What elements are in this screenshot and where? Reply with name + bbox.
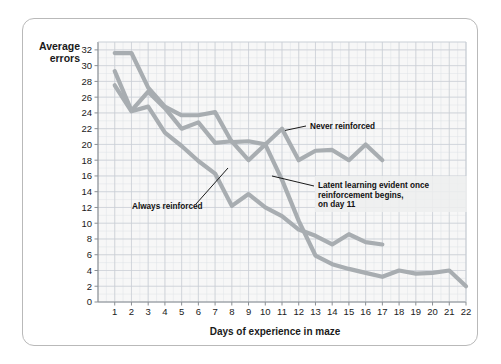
x-tick-label: 18: [394, 306, 405, 317]
x-tick-label: 17: [377, 306, 388, 317]
latent-learning-line3: on day 11: [318, 200, 356, 209]
y-tick-label: 16: [81, 170, 92, 181]
y-tick-labels: 02468101214161820222426283032: [81, 44, 98, 307]
latent-learning-line2: reinforcement begins,: [318, 191, 404, 200]
y-tick-label: 18: [81, 155, 92, 166]
y-tick-label: 6: [87, 249, 92, 260]
y-tick-label: 12: [81, 202, 92, 213]
y-tick-label: 20: [81, 139, 92, 150]
x-tick-label: 19: [411, 306, 422, 317]
y-tick-label: 22: [81, 123, 92, 134]
y-tick-label: 26: [81, 92, 92, 103]
never-reinforced-label: Never reinforced: [310, 122, 375, 131]
x-tick-label: 12: [293, 306, 304, 317]
x-tick-label: 14: [327, 306, 338, 317]
x-tick-label: 3: [146, 306, 151, 317]
y-tick-label: 0: [87, 296, 92, 307]
x-tick-label: 4: [162, 306, 167, 317]
x-tick-label: 2: [129, 306, 134, 317]
y-tick-label: 10: [81, 218, 92, 229]
always-reinforced-label: Always reinforced: [132, 202, 203, 211]
x-tick-label: 13: [310, 306, 321, 317]
x-tick-label: 9: [246, 306, 251, 317]
y-tick-label: 8: [87, 233, 92, 244]
x-tick-label: 8: [229, 306, 234, 317]
x-tick-label: 6: [196, 306, 201, 317]
x-tick-label: 1: [112, 306, 117, 317]
x-tick-label: 15: [344, 306, 355, 317]
y-tick-label: 30: [81, 60, 92, 71]
x-tick-label: 10: [260, 306, 271, 317]
line-chart: 02468101214161820222426283032 1234567891…: [0, 0, 501, 364]
x-tick-label: 5: [179, 306, 184, 317]
y-tick-label: 32: [81, 44, 92, 55]
x-tick-label: 20: [427, 306, 438, 317]
x-tick-label: 16: [360, 306, 371, 317]
y-tick-label: 4: [87, 265, 92, 276]
x-tick-label: 11: [277, 306, 287, 317]
x-tick-labels: 12345678910111213141516171819202122: [112, 302, 471, 317]
y-tick-label: 24: [81, 107, 92, 118]
x-tick-label: 21: [444, 306, 455, 317]
y-tick-label: 28: [81, 76, 92, 87]
x-tick-label: 22: [461, 306, 472, 317]
x-tick-label: 7: [212, 306, 217, 317]
y-tick-label: 14: [81, 186, 92, 197]
y-tick-label: 2: [87, 281, 92, 292]
latent-learning-line1: Latent learning evident once: [318, 181, 429, 190]
